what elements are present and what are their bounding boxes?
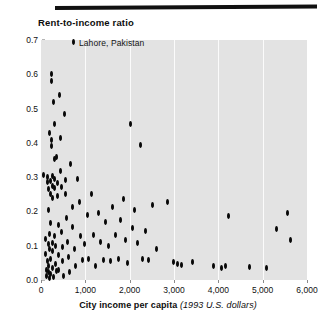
y-tick-label-0.5: 0.5 xyxy=(2,104,38,114)
x-tick-mark-3000 xyxy=(174,280,175,283)
y-tick-label-0.2: 0.2 xyxy=(2,206,38,216)
gridline-x-4000 xyxy=(218,40,219,280)
scatter-point xyxy=(50,137,53,143)
scatter-point xyxy=(54,243,57,249)
scatter-point xyxy=(57,252,60,258)
gridline-x-2000 xyxy=(130,40,131,280)
scatter-point xyxy=(151,202,154,208)
scatter-point xyxy=(94,263,97,269)
scatter-point xyxy=(81,257,84,263)
scatter-point xyxy=(119,217,122,223)
x-axis-title-units: (1993 U.S. dollars) xyxy=(180,300,257,310)
scatter-point xyxy=(67,254,70,260)
chart-title: Rent-to-income ratio xyxy=(38,17,134,28)
scatter-point xyxy=(79,233,82,239)
plot-area: Lahore, Pakistan xyxy=(41,40,307,280)
scatter-point xyxy=(57,222,60,228)
scatter-point xyxy=(275,226,278,232)
y-axis: 0.00.10.20.30.40.50.60.7 xyxy=(0,0,38,322)
x-tick-label-2000: 2,000 xyxy=(119,285,140,295)
scatter-point xyxy=(60,229,63,235)
x-tick-mark-0 xyxy=(41,280,42,283)
annotation-marker-icon xyxy=(72,39,75,45)
scatter-point xyxy=(63,111,66,117)
scatter-point xyxy=(62,273,65,279)
scatter-point xyxy=(49,220,52,226)
scatter-point xyxy=(57,267,60,273)
x-tick-label-1000: 1,000 xyxy=(75,285,96,295)
header-rule xyxy=(55,4,317,10)
scatter-point xyxy=(58,92,61,98)
x-tick-label-0: 0 xyxy=(39,285,44,295)
scatter-point xyxy=(92,232,95,238)
x-tick-mark-1000 xyxy=(85,280,86,283)
x-tick-mark-6000 xyxy=(307,280,308,283)
gridline-x-3000 xyxy=(174,40,175,280)
x-axis-title-main: City income per capita xyxy=(79,300,177,310)
scatter-point xyxy=(114,232,117,238)
scatter-point xyxy=(53,233,56,239)
scatter-point xyxy=(50,143,53,149)
y-tick-label-0.6: 0.6 xyxy=(2,69,38,79)
x-tick-label-4000: 4,000 xyxy=(208,285,229,295)
scatter-point xyxy=(73,246,76,252)
annotation-label: Lahore, Pakistan xyxy=(79,38,144,48)
scatter-point xyxy=(124,237,127,243)
scatter-point xyxy=(139,142,142,148)
scatter-point xyxy=(133,207,136,213)
scatter-point xyxy=(42,172,45,178)
scatter-point xyxy=(265,265,268,271)
scatter-point xyxy=(71,204,74,210)
scatter-point xyxy=(136,240,139,246)
scatter-point xyxy=(56,180,59,186)
x-tick-label-3000: 3,000 xyxy=(163,285,184,295)
scatter-point xyxy=(220,265,223,271)
x-tick-mark-4000 xyxy=(218,280,219,283)
scatter-point xyxy=(49,256,52,262)
scatter-point xyxy=(48,231,51,237)
scatter-point xyxy=(109,258,112,264)
scatter-point xyxy=(54,261,57,267)
scatter-point xyxy=(48,130,51,136)
scatter-point xyxy=(289,237,292,243)
scatter-point xyxy=(248,264,251,270)
scatter-point xyxy=(78,199,81,205)
x-axis-title: City income per capita (1993 U.S. dollar… xyxy=(0,300,336,310)
scatter-point xyxy=(286,210,289,216)
scatter-point xyxy=(147,257,150,263)
x-tick-mark-5000 xyxy=(263,280,264,283)
scatter-point xyxy=(104,219,107,225)
scatter-point xyxy=(227,213,230,219)
scatter-point xyxy=(176,261,179,267)
scatter-point xyxy=(224,263,227,269)
scatter-point xyxy=(47,263,50,269)
scatter-point xyxy=(53,121,56,127)
scatter-point xyxy=(99,239,102,245)
scatter-point xyxy=(166,199,169,205)
y-tick-label-0.7: 0.7 xyxy=(2,35,38,45)
scatter-point xyxy=(107,243,110,249)
scatter-point xyxy=(86,212,89,218)
scatter-point xyxy=(111,204,114,210)
scatter-point xyxy=(66,239,69,245)
scatter-point xyxy=(97,210,100,216)
scatter-point xyxy=(74,263,77,269)
scatter-point xyxy=(53,185,56,191)
scatter-point xyxy=(102,257,105,263)
scatter-point xyxy=(59,135,62,141)
y-tick-label-0.3: 0.3 xyxy=(2,172,38,182)
scatter-point xyxy=(61,258,64,264)
y-tick-label-0.4: 0.4 xyxy=(2,138,38,148)
scatter-point xyxy=(129,121,132,127)
scatter-point xyxy=(44,251,47,257)
scatter-point xyxy=(68,269,71,275)
scatter-point xyxy=(59,168,62,174)
scatter-point xyxy=(191,259,194,265)
scatter-point xyxy=(61,244,64,250)
scatter-point xyxy=(44,236,47,242)
x-tick-label-6000: 6,000 xyxy=(296,285,317,295)
scatter-point xyxy=(52,99,55,105)
y-tick-label-0.1: 0.1 xyxy=(2,241,38,251)
y-tick-label-0.0: 0.0 xyxy=(2,275,38,285)
scatter-point xyxy=(144,228,147,234)
